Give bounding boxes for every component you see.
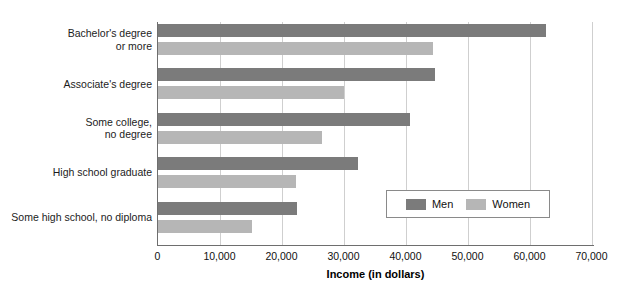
x-tick-label: 20,000 xyxy=(265,250,297,262)
x-tick-label: 10,000 xyxy=(203,250,235,262)
bar-women xyxy=(158,131,322,144)
bar-men xyxy=(158,202,298,215)
bar-men xyxy=(158,157,359,170)
bar-men xyxy=(158,68,436,81)
x-tick-label: 30,000 xyxy=(327,250,359,262)
x-tick-label: 60,000 xyxy=(513,250,545,262)
bar-women xyxy=(158,42,433,55)
legend-swatch-women-icon xyxy=(466,199,486,210)
bar-women xyxy=(158,175,296,188)
chart-legend: Men Women xyxy=(386,190,550,218)
category-label: Some high school, no diploma xyxy=(0,211,152,224)
category-label: Associate's degree xyxy=(0,78,152,91)
chart-title-strip xyxy=(150,0,620,12)
category-label: Some college, no degree xyxy=(0,116,152,141)
gridline xyxy=(592,22,593,245)
x-tick-label: 50,000 xyxy=(451,250,483,262)
legend-item-women: Women xyxy=(466,198,530,210)
bar-chart: Bachelor's degree or moreAssociate's deg… xyxy=(0,0,625,298)
category-label: Bachelor's degree or more xyxy=(0,27,152,52)
bar-women xyxy=(158,220,253,233)
bar-women xyxy=(158,86,344,99)
gridline xyxy=(344,22,345,245)
bar-men xyxy=(158,24,547,37)
bar-men xyxy=(158,113,410,126)
legend-item-men: Men xyxy=(406,198,453,210)
x-axis-title: Income (in dollars) xyxy=(157,268,594,280)
x-axis-line xyxy=(157,245,594,246)
legend-label-women: Women xyxy=(492,198,530,210)
legend-swatch-men-icon xyxy=(406,199,426,210)
x-tick-label: 70,000 xyxy=(575,250,607,262)
x-tick-label: 40,000 xyxy=(389,250,421,262)
x-tick-label: 0 xyxy=(155,250,161,262)
legend-label-men: Men xyxy=(432,198,453,210)
category-label: High school graduate xyxy=(0,166,152,179)
